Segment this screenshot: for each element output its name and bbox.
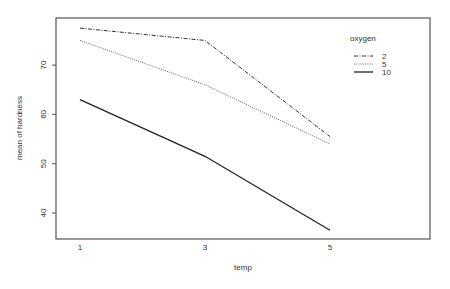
x-tick-label: 3 [203, 243, 208, 252]
legend-title: oxygen [350, 34, 376, 43]
x-tick-label: 5 [328, 243, 333, 252]
legend: oxygen 2 5 10 [350, 34, 391, 77]
x-axis-label: temp [234, 263, 252, 272]
plot-frame [56, 18, 430, 239]
interaction-plot: 40506070 135 temp mean of hardness oxyge… [0, 0, 450, 289]
y-axis: 40506070 [39, 60, 56, 217]
series-line-oxygen-5 [80, 40, 330, 144]
legend-label-10: 10 [382, 68, 391, 77]
y-axis-label: mean of hardness [15, 96, 24, 160]
x-axis: 135 [78, 243, 333, 252]
series-line-oxygen-10 [80, 100, 330, 231]
y-tick-label: 70 [39, 60, 48, 69]
y-tick-label: 60 [39, 109, 48, 118]
series-lines [80, 28, 330, 230]
y-tick-label: 40 [39, 208, 48, 217]
y-tick-label: 50 [39, 159, 48, 168]
x-tick-label: 1 [78, 243, 83, 252]
series-line-oxygen-2 [80, 28, 330, 136]
